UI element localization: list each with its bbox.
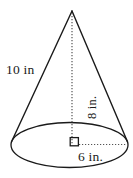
cone-figure: 10 in 8 in. 6 in.	[0, 0, 133, 178]
cone-base-ellipse	[11, 123, 128, 168]
height-label: 8 in.	[86, 96, 99, 119]
radius-label: 6 in.	[78, 150, 103, 164]
right-angle-marker-icon	[70, 138, 78, 146]
slant-height-label: 10 in	[6, 63, 34, 77]
cone-drawing	[0, 0, 133, 178]
